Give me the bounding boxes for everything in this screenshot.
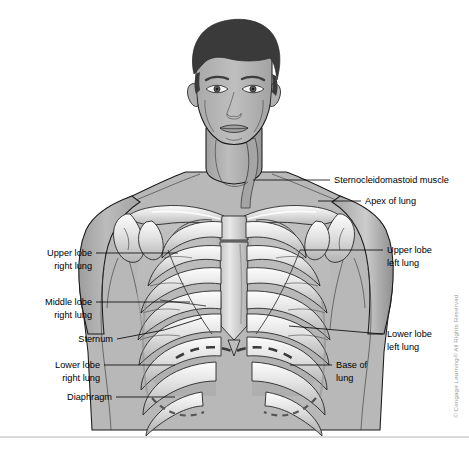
- label-upper-lobe-left-lung-line2: left lung: [387, 258, 419, 268]
- label-diaphragm: Diaphragm: [67, 392, 112, 402]
- left-pupil: [216, 88, 219, 91]
- thorax-illustration: Sternocleidomastoid muscle Apex of lung …: [0, 0, 469, 449]
- copyright-notice: © Cengage Learning® All Rights Reserved: [452, 294, 459, 418]
- label-sternocleidomastoid-muscle: Sternocleidomastoid muscle: [334, 175, 449, 185]
- label-upper-lobe-left-lung: Upper lobe: [387, 245, 432, 255]
- hair-sideburn-left: [195, 72, 201, 94]
- label-lower-lobe-right-lung: Lower lobe: [55, 360, 100, 370]
- anatomy-figure: Sternocleidomastoid muscle Apex of lung …: [0, 0, 469, 449]
- label-upper-lobe-right-lung: Upper lobe: [47, 248, 92, 258]
- label-lower-lobe-left-lung-line2: left lung: [387, 342, 419, 352]
- label-apex-of-lung: Apex of lung: [365, 196, 416, 206]
- label-lower-lobe-left-lung: Lower lobe: [387, 329, 432, 339]
- sternum-manubrium: [220, 216, 248, 240]
- label-middle-lobe-right-lung: Middle lobe: [45, 297, 92, 307]
- label-base-of-lung-line2: lung: [336, 373, 353, 383]
- label-middle-lobe-right-lung-line2: right lung: [54, 310, 92, 320]
- sternum-body: [220, 242, 248, 340]
- label-base-of-lung: Base of: [336, 360, 368, 370]
- label-sternum: Sternum: [78, 334, 113, 344]
- right-pupil: [252, 88, 255, 91]
- label-lower-lobe-right-lung-line2: right lung: [62, 373, 100, 383]
- label-upper-lobe-right-lung-line2: right lung: [54, 261, 92, 271]
